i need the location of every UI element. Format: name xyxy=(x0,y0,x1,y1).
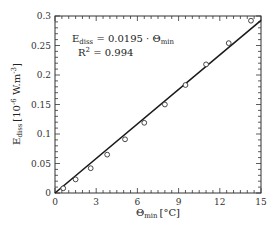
data-point xyxy=(73,177,78,182)
y-tick-label: 0.15 xyxy=(31,100,51,110)
x-tick-label: 15 xyxy=(255,197,267,207)
data-point xyxy=(61,186,66,191)
x-axis-label: Θmin[°C] xyxy=(136,207,180,220)
data-point xyxy=(88,166,93,171)
chart: 0369121500.050.10.150.20.250.3 Ediss = 0… xyxy=(0,0,277,236)
x-tick-label: 0 xyxy=(52,197,58,207)
x-tick-label: 12 xyxy=(214,197,225,207)
y-tick-label: 0.3 xyxy=(37,11,52,21)
data-point xyxy=(226,41,231,46)
data-point xyxy=(183,83,188,88)
r-squared-annotation: R2 = 0.994 xyxy=(78,46,133,58)
x-tick-label: 9 xyxy=(176,197,182,207)
data-point xyxy=(249,18,254,23)
x-tick-label: 3 xyxy=(93,197,99,207)
y-axis-label: Ediss[10-6 W.m-3] xyxy=(10,63,24,145)
data-point xyxy=(105,152,110,157)
data-point xyxy=(123,137,128,142)
y-tick-label: 0.2 xyxy=(37,70,51,80)
data-point xyxy=(142,120,147,125)
equation-annotation: Ediss = 0.0195 · Θmin xyxy=(72,33,175,46)
x-tick-label: 6 xyxy=(135,197,141,207)
y-tick-label: 0.25 xyxy=(31,41,51,51)
data-point xyxy=(162,102,167,107)
data-point xyxy=(204,62,209,67)
y-tick-label: 0 xyxy=(45,188,51,198)
y-tick-label: 0.05 xyxy=(31,159,51,169)
y-tick-label: 0.1 xyxy=(37,129,51,139)
